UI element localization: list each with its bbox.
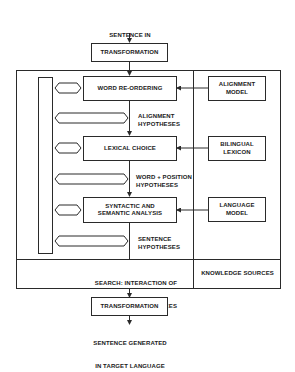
frame-vertical-divider — [193, 70, 194, 289]
ks0-line1: ALIGNMENT — [219, 81, 256, 89]
output-line1: SENTENCE GENERATED — [80, 340, 180, 348]
knowledge-alignment-model: ALIGNMENT MODEL — [208, 76, 266, 101]
ks2-line1: LANGUAGE — [219, 202, 254, 210]
hyp2-line1: SENTENCE — [138, 236, 180, 244]
stage-syntactic-semantic: SYNTACTIC AND SEMANTIC ANALYSIS — [83, 197, 177, 223]
transformation-bottom-label: TRANSFORMATION — [101, 303, 159, 311]
search-control-bar — [38, 77, 53, 254]
output-sentence-label: SENTENCE GENERATED IN TARGET LANGUAGE — [80, 325, 180, 372]
transformation-top-box: TRANSFORMATION — [91, 43, 168, 62]
frame-horizontal-divider — [16, 259, 281, 260]
stage-syntactic-line1: SYNTACTIC AND — [105, 203, 155, 211]
knowledge-bilingual-lexicon: BILINGUAL LEXICON — [208, 136, 266, 161]
stage-word-reordering-label: WORD RE-ORDERING — [98, 85, 163, 93]
ks2-line2: MODEL — [226, 210, 248, 218]
hyp0-line2: HYPOTHESES — [138, 121, 180, 129]
stage-syntactic-line2: SEMANTIC ANALYSIS — [98, 210, 162, 218]
transformation-top-label: TRANSFORMATION — [101, 49, 159, 57]
stage-lexical-choice: LEXICAL CHOICE — [83, 136, 177, 161]
search-line1: SEARCH: INTERACTION OF — [80, 280, 177, 288]
hyp0-line1: ALIGNMENT — [138, 113, 180, 121]
alignment-hypotheses-label: ALIGNMENTHYPOTHESES — [138, 113, 180, 128]
knowledge-language-model: LANGUAGE MODEL — [208, 197, 266, 222]
sentence-hypotheses-label: SENTENCEHYPOTHESES — [138, 236, 180, 251]
ks1-line1: BILINGUAL — [220, 141, 254, 149]
stage-lexical-choice-label: LEXICAL CHOICE — [104, 145, 156, 153]
stage-word-reordering: WORD RE-ORDERING — [83, 76, 177, 101]
ks1-line2: LEXICON — [223, 149, 250, 157]
knowledge-sources-footer-label: KNOWLEDGE SOURCES — [194, 270, 281, 278]
word-position-hypotheses-label: WORD + POSITIONHYPOTHESES — [136, 174, 192, 189]
ks0-line2: MODEL — [226, 89, 248, 97]
input-line1: SENTENCE IN — [90, 32, 170, 40]
hyp1-line1: WORD + POSITION — [136, 174, 192, 182]
transformation-bottom-box: TRANSFORMATION — [91, 297, 168, 316]
output-line2: IN TARGET LANGUAGE — [80, 363, 180, 371]
hyp1-line2: HYPOTHESES — [136, 182, 192, 190]
hyp2-line2: HYPOTHESES — [138, 244, 180, 252]
